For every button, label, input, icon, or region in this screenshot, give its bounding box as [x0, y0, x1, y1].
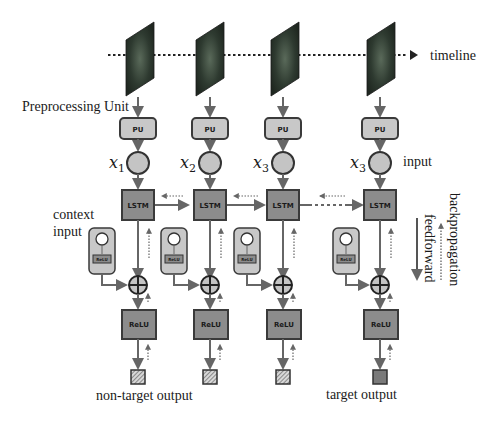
- column-2: PU x2 LSTM ReLU ReLU: [161, 97, 228, 384]
- frame-2: [196, 22, 224, 96]
- lstm-label: LSTM: [199, 202, 220, 210]
- svg-text:ReLU: ReLU: [168, 257, 179, 262]
- lstm-connections: [154, 196, 362, 205]
- relu-label: ReLU: [274, 321, 294, 329]
- backpropagation-label: backpropagation: [447, 193, 462, 286]
- non-target-output-node: [203, 370, 217, 384]
- non-target-output-node: [276, 370, 290, 384]
- context-input-label-line2: input: [53, 224, 82, 239]
- lstm-architecture-diagram: timeline Preprocessing Unit input contex…: [0, 0, 496, 421]
- input-var: x2: [180, 153, 196, 175]
- pu-label: PU: [133, 126, 144, 134]
- target-output-node: [373, 370, 387, 384]
- pu-label: PU: [205, 126, 216, 134]
- input-node: [127, 152, 149, 174]
- relu-label: ReLU: [129, 321, 149, 329]
- relu-label: ReLU: [201, 321, 221, 329]
- frame-4: [367, 22, 395, 96]
- input-node: [272, 152, 294, 174]
- non-target-output-node: [131, 370, 145, 384]
- lstm-label: LSTM: [127, 202, 148, 210]
- feedforward-label: feedforward: [422, 214, 437, 282]
- preprocessing-unit-label: Preprocessing Unit: [22, 99, 129, 114]
- input-node: [199, 152, 221, 174]
- context-input-label-line1: context: [53, 207, 94, 222]
- frame-1: [126, 22, 154, 96]
- column-3: PU x3 LSTM ReLU ReLU: [234, 97, 301, 384]
- non-target-output-label: non-target output: [96, 388, 193, 403]
- svg-text:ReLU: ReLU: [340, 257, 351, 262]
- svg-text:ReLU: ReLU: [96, 257, 107, 262]
- legend: feedforward backpropagation: [417, 193, 462, 286]
- input-var: x1: [109, 153, 125, 175]
- lstm-label: LSTM: [272, 202, 293, 210]
- input-node: [369, 152, 391, 174]
- pu-label: PU: [375, 126, 386, 134]
- input-label: input: [403, 154, 432, 169]
- input-var: x3: [253, 153, 269, 175]
- input-var: x3: [350, 153, 366, 175]
- frame-3: [271, 22, 299, 96]
- column-4: PU x3 LSTM ReLU ReLU: [333, 97, 398, 384]
- lstm-label: LSTM: [369, 202, 390, 210]
- relu-label: ReLU: [371, 321, 391, 329]
- pu-label: PU: [278, 126, 289, 134]
- timeline-label: timeline: [430, 48, 476, 63]
- column-1: PU x1 LSTM ReLU ReLU: [89, 97, 156, 384]
- svg-text:ReLU: ReLU: [241, 257, 252, 262]
- timeline-arrow-icon: [410, 50, 418, 60]
- target-output-label: target output: [326, 387, 397, 402]
